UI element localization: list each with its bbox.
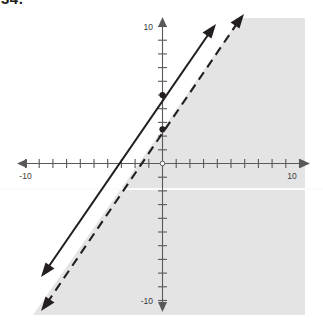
solid-line-lower-arrow: [41, 263, 55, 278]
x-tick-label-positive-ten: 10: [287, 171, 297, 181]
y-tick-label-positive-ten: 10: [144, 22, 154, 32]
y-axis-up-arrow: [158, 17, 167, 27]
coordinate-plane-svg: -10 10 10 -10: [0, 0, 323, 327]
origin-marker: [160, 161, 165, 166]
solution-region-shading: [33, 18, 305, 315]
x-tick-label-negative-ten: -10: [19, 171, 32, 181]
solid-line-intercept-point: [159, 92, 165, 98]
dashed-line-intercept-point: [159, 126, 165, 132]
solid-line-upper-arrow: [203, 24, 217, 39]
scan-artifact-band: [0, 188, 323, 190]
graph-figure: 34.: [0, 0, 323, 327]
y-tick-label-negative-ten: -10: [141, 296, 154, 306]
